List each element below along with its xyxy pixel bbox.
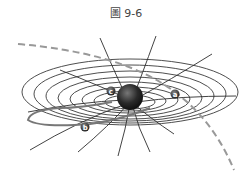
- object-c: c: [107, 87, 116, 96]
- central-mass: [117, 84, 143, 110]
- object-label-c: c: [109, 88, 113, 96]
- object-a: a: [171, 90, 180, 99]
- spacetime-curvature-diagram: c a b: [0, 0, 252, 176]
- object-label-a: a: [173, 91, 178, 99]
- object-b: b: [81, 123, 90, 132]
- object-label-b: b: [83, 124, 88, 132]
